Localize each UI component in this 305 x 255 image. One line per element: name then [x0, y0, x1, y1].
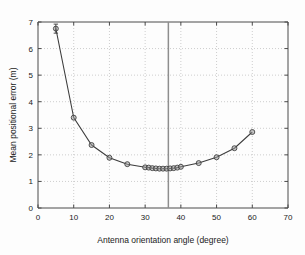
y-tick-label: 6 [29, 45, 34, 54]
chart-figure: 010203040506070 01234567 Antenna orienta… [0, 0, 305, 255]
x-axis-title: Antenna orientation angle (degree) [97, 235, 229, 245]
x-tick-label: 10 [69, 213, 78, 222]
data-point-marker [107, 155, 112, 160]
y-tick-label: 0 [29, 204, 34, 213]
x-tick-label: 0 [36, 213, 41, 222]
data-point-marker [178, 164, 183, 169]
y-tick-label: 2 [29, 151, 34, 160]
y-tick-label: 5 [29, 71, 34, 80]
x-tick-label: 50 [212, 213, 221, 222]
data-point-marker [89, 143, 94, 148]
x-tick-label: 70 [284, 213, 293, 222]
x-tick-label: 40 [176, 213, 185, 222]
y-tick-label: 1 [29, 177, 34, 186]
y-tick-label: 7 [29, 18, 34, 27]
x-tick-label: 20 [105, 213, 114, 222]
data-point-marker [71, 115, 76, 120]
x-tick-label: 30 [141, 213, 150, 222]
y-tick-label: 3 [29, 124, 34, 133]
data-point-marker [125, 162, 130, 167]
y-tick-label: 4 [29, 98, 34, 107]
x-tick-label: 60 [248, 213, 257, 222]
data-point-marker [250, 130, 255, 135]
data-point-marker [214, 155, 219, 160]
figure-background [0, 0, 305, 255]
line-chart: 010203040506070 01234567 Antenna orienta… [0, 0, 305, 255]
data-point-marker [196, 161, 201, 166]
data-point-marker [232, 146, 237, 151]
y-axis-title: Mean positional error (m) [8, 67, 18, 162]
